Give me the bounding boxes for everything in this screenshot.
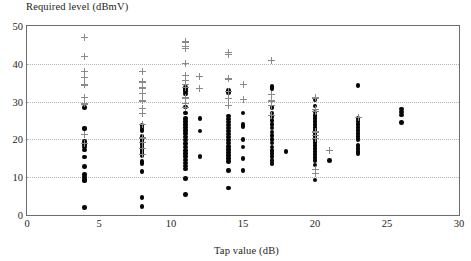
x-axis-title: Tap value (dB)	[214, 245, 279, 256]
data-point-computed	[139, 97, 146, 104]
data-point-computed	[139, 151, 146, 158]
data-point-computed	[225, 88, 232, 95]
data-point-measured	[82, 205, 87, 210]
x-tick-label-15: 15	[238, 218, 249, 229]
x-tick-label-25: 25	[382, 218, 393, 229]
gridline-y-10	[27, 177, 459, 178]
data-point-measured	[241, 145, 246, 150]
data-point-computed	[225, 51, 232, 58]
x-tick-label-5: 5	[96, 218, 101, 229]
data-point-measured	[198, 129, 203, 134]
data-point-computed	[240, 81, 247, 88]
data-point-computed	[139, 110, 146, 117]
y-tick-label-0: 0	[18, 210, 23, 221]
x-tick-label-30: 30	[454, 218, 465, 229]
data-point-measured	[82, 164, 87, 169]
x-tick-label-0: 0	[24, 218, 29, 229]
data-point-measured	[241, 137, 246, 142]
data-point-computed	[182, 104, 189, 111]
y-tick-label-30: 30	[13, 96, 24, 107]
data-point-measured	[356, 137, 361, 142]
data-point-measured	[356, 151, 361, 156]
data-point-measured	[140, 128, 145, 133]
data-point-measured	[241, 156, 246, 161]
data-point-measured	[183, 167, 188, 172]
data-point-measured	[140, 169, 145, 174]
data-point-measured	[399, 120, 404, 125]
data-point-measured	[82, 155, 87, 160]
data-point-measured	[140, 161, 145, 166]
data-point-measured	[356, 83, 361, 88]
data-point-measured	[82, 179, 87, 184]
y-tick-label-10: 10	[13, 172, 24, 183]
y-axis-title: Required level (dBmV)	[26, 1, 128, 12]
gridline-y-40	[27, 64, 459, 65]
data-point-computed	[139, 121, 146, 128]
data-point-computed	[182, 60, 189, 67]
data-point-computed	[240, 96, 247, 103]
data-point-computed	[268, 102, 275, 109]
data-point-measured	[241, 168, 246, 173]
data-point-computed	[81, 74, 88, 81]
data-point-computed	[312, 170, 319, 177]
data-point-measured	[183, 192, 188, 197]
data-point-measured	[313, 178, 318, 183]
x-tick-label-20: 20	[310, 218, 321, 229]
data-point-measured	[198, 154, 203, 159]
data-point-computed	[312, 94, 319, 101]
y-tick-label-20: 20	[13, 134, 24, 145]
data-point-computed	[81, 100, 88, 107]
data-point-measured	[226, 168, 231, 173]
data-point-computed	[312, 108, 319, 115]
y-tick-label-50: 50	[13, 21, 24, 32]
data-point-measured	[226, 186, 231, 191]
data-point-measured	[183, 176, 188, 181]
data-point-computed	[355, 114, 362, 121]
data-point-measured	[270, 161, 275, 166]
data-point-computed	[81, 81, 88, 88]
data-point-computed	[312, 135, 319, 142]
data-point-computed	[81, 34, 88, 41]
data-point-computed	[196, 73, 203, 80]
data-point-measured	[82, 148, 87, 153]
data-point-computed	[139, 68, 146, 75]
plot-area: 01020304050 051015202530	[26, 25, 460, 216]
data-point-measured	[140, 204, 145, 209]
data-point-computed	[196, 85, 203, 92]
x-tick-label-10: 10	[166, 218, 177, 229]
data-point-computed	[81, 131, 88, 138]
data-point-measured	[327, 158, 332, 163]
data-point-computed	[326, 147, 333, 154]
data-point-measured	[183, 111, 188, 116]
x-axis-title-wrap: Tap value (dB)	[0, 245, 471, 256]
data-point-measured	[241, 111, 246, 116]
data-point-computed	[182, 45, 189, 52]
data-point-measured	[226, 159, 231, 164]
y-tick-label-40: 40	[13, 58, 24, 69]
data-point-measured	[399, 113, 404, 118]
data-point-measured	[284, 149, 289, 154]
data-point-computed	[182, 84, 189, 91]
data-point-computed	[268, 57, 275, 64]
data-point-computed	[268, 112, 275, 119]
data-point-measured	[241, 124, 246, 129]
data-point-measured	[140, 195, 145, 200]
scatter-plot-figure: Required level (dBmV) 01020304050 051015…	[0, 0, 471, 261]
data-point-computed	[81, 53, 88, 60]
data-point-measured	[198, 116, 203, 121]
data-point-computed	[225, 102, 232, 109]
data-point-computed	[225, 75, 232, 82]
data-point-computed	[81, 140, 88, 147]
